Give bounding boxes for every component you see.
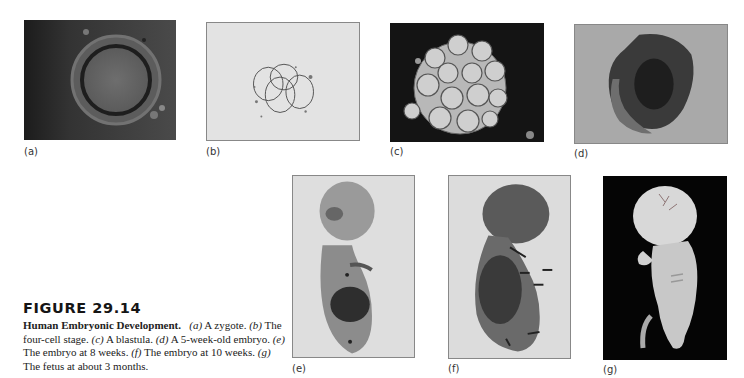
photo-5-week-embryo (574, 24, 728, 144)
four-cell-image (207, 23, 359, 140)
caption-text-e: The embryo at 8 weeks. (23, 346, 128, 358)
caption-text-f: The embryo at 10 weeks. (144, 346, 255, 358)
caption-tag-g: (g) (258, 346, 271, 358)
photo-embryo-10-weeks (448, 175, 571, 359)
panel-label-e: (e) (292, 363, 306, 374)
caption-tag-b: (b) (249, 319, 262, 331)
embryo-10-weeks-image (449, 176, 570, 358)
caption-tag-c: (c) (92, 333, 104, 345)
panel-label-d: (d) (574, 148, 588, 159)
photo-blastula (390, 23, 544, 142)
panel-label-g: (g) (603, 364, 617, 375)
embryo-8-weeks-image (293, 176, 414, 357)
caption-tag-e: (e) (273, 333, 285, 345)
blastula-image (390, 23, 544, 142)
caption-text-a: A zygote. (204, 319, 246, 331)
caption-text-c: A blastula. (106, 333, 153, 345)
panel-label-a: (a) (24, 146, 38, 157)
figure-caption: Human Embryonic Development. (a) A zygot… (23, 319, 285, 373)
caption-title: Human Embryonic Development. (23, 319, 181, 331)
caption-text-d: A 5-week-old embryo. (171, 333, 270, 345)
caption-tag-d: (d) (156, 333, 169, 345)
panel-label-f: (f) (448, 363, 459, 374)
caption-tag-a: (a) (189, 319, 202, 331)
panel-label-b: (b) (206, 146, 220, 157)
figure-number: FIGURE 29.14 (23, 300, 141, 316)
fetus-3-months-image (603, 176, 727, 360)
photo-four-cell-stage (206, 22, 360, 141)
photo-zygote (24, 20, 176, 140)
photo-fetus-3-months (603, 176, 727, 360)
zygote-image (24, 20, 176, 140)
panel-label-c: (c) (390, 146, 403, 157)
caption-tag-f: (f) (131, 346, 141, 358)
caption-text-g: The fetus at about 3 months. (23, 360, 148, 372)
photo-embryo-8-weeks (292, 175, 415, 358)
5-week-embryo-image (575, 25, 727, 143)
